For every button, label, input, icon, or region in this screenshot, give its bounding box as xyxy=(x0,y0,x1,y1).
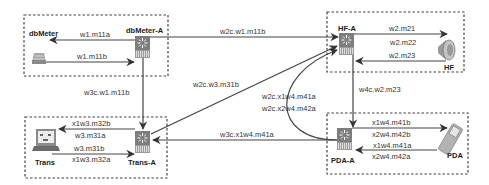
node-label-dbmeter-a: dbMeter-A xyxy=(126,26,164,35)
edge-label: w1.m11a xyxy=(79,30,111,39)
edge-label: w2.m22 xyxy=(389,38,416,47)
network-diagram: dbMeter dbMeter-A HF-A HF Trans Trans-A … xyxy=(0,0,489,185)
meter-device-icon[interactable] xyxy=(32,53,46,64)
switch-icon-hf-a[interactable] xyxy=(339,33,354,55)
node-label-hf-a: HF-A xyxy=(338,24,356,33)
switch-icon-pda-a[interactable] xyxy=(337,128,352,150)
edge-label: x1w3.m32a xyxy=(72,155,111,164)
edge-label: w2c.x2w4.m42a xyxy=(261,104,317,113)
node-label-pda-a: PDA-A xyxy=(331,156,355,165)
node-label-pda: PDA xyxy=(447,151,463,160)
edge-label: x2w4.m42a xyxy=(372,152,411,161)
edge-label: w2c.w1.m11b xyxy=(219,27,265,36)
laptop-icon[interactable] xyxy=(32,129,60,151)
edge-label: w2.m21 xyxy=(388,24,415,33)
edge-label: w2.m23 xyxy=(388,51,415,60)
edge-label: x1w4.m41b xyxy=(372,118,410,127)
edge-label: w3c.x1w4.m41a xyxy=(219,130,275,139)
edge-label: x2w4.m42b xyxy=(372,130,410,139)
node-label-trans: Trans xyxy=(35,158,55,167)
link-w2c-w3-m31b[interactable] xyxy=(151,46,337,134)
edge-label: w2c.w3.m31b xyxy=(192,80,239,89)
edge-label: w3c.w1.m11b xyxy=(83,88,129,97)
edge-label: w3.m31a xyxy=(74,131,106,140)
switch-icon-trans-a[interactable] xyxy=(135,131,150,153)
edge-label: x1w4.m41a xyxy=(373,141,412,150)
node-label-trans-a: Trans-A xyxy=(128,158,157,167)
edge-label: w4c.w2.m23 xyxy=(358,85,401,94)
edge-label: w1.m11b xyxy=(76,52,107,61)
edge-label: w2c.x1w4.m41a xyxy=(261,92,317,101)
edge-label: w3.m31b xyxy=(73,144,104,153)
node-label-hf: HF xyxy=(444,63,454,72)
node-label-dbmeter: dbMeter xyxy=(29,29,58,38)
speaker-icon[interactable] xyxy=(438,40,455,60)
switch-icon-dbmeter-a[interactable] xyxy=(135,36,150,58)
edge-label: x1w3.m32b xyxy=(72,119,110,128)
